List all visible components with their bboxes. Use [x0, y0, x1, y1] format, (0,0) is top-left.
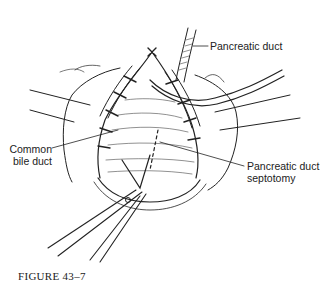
label-septotomy-line1: Pancreatic duct — [247, 160, 319, 172]
label-pancreatic-duct-septotomy: Pancreatic duct septotomy — [247, 160, 319, 184]
septotomy-incision — [150, 130, 158, 170]
label-common-bile-duct: Common bile duct — [4, 143, 52, 167]
papilla-edge-right — [152, 52, 198, 178]
left-tissue-flap — [63, 68, 120, 182]
label-pancreatic-duct: Pancreatic duct — [210, 40, 282, 52]
figure-caption: FIGURE 43–7 — [18, 270, 86, 282]
label-common-bile-duct-line2: bile duct — [4, 155, 52, 167]
right-tissue-flap — [195, 75, 238, 190]
leader-common-bile-duct — [52, 130, 118, 148]
label-common-bile-duct-line1: Common — [4, 143, 52, 155]
leader-septotomy — [160, 142, 244, 166]
label-septotomy-line2: septotomy — [247, 172, 319, 184]
